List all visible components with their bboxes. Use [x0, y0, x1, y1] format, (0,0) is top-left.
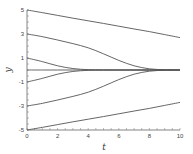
- series-line: [27, 58, 180, 70]
- series-line: [27, 70, 180, 82]
- series-line: [27, 102, 180, 130]
- y-axis-label: y: [3, 67, 13, 74]
- x-tick-label: 10: [177, 133, 184, 139]
- x-tick-label: 0: [25, 133, 29, 139]
- series-line: [27, 70, 180, 106]
- axes: 0246810-5-3-1135: [19, 7, 184, 139]
- y-tick-label: -3: [19, 103, 25, 109]
- line-chart: 0246810-5-3-1135 t y: [0, 0, 193, 154]
- y-tick-label: 3: [21, 31, 25, 37]
- series-lines: [27, 10, 180, 130]
- series-line: [27, 10, 180, 38]
- series-line: [27, 34, 180, 70]
- y-tick-label: 1: [21, 55, 25, 61]
- y-tick-label: -1: [19, 79, 25, 85]
- x-axis-label: t: [102, 142, 106, 152]
- y-tick-label: 5: [21, 7, 25, 13]
- x-tick-label: 6: [117, 133, 121, 139]
- x-tick-label: 8: [148, 133, 152, 139]
- x-tick-label: 2: [56, 133, 60, 139]
- y-tick-label: -5: [19, 127, 25, 133]
- x-tick-label: 4: [87, 133, 91, 139]
